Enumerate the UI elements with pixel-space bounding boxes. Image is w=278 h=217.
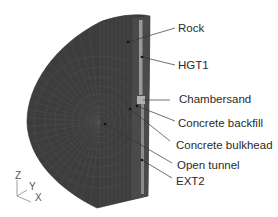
label-chambersand: Chambersand (179, 93, 251, 105)
label-rock: Rock (178, 22, 204, 34)
label-concrete-backfill: Concrete backfill (178, 117, 263, 129)
label-ext2: EXT2 (176, 175, 205, 187)
axis-z-label: Z (15, 170, 21, 181)
axis-y-label: Y (29, 181, 36, 192)
label-hgt1: HGT1 (178, 59, 209, 71)
mesh-diagram: Rock HGT1 Chambersand Concrete backfill … (0, 0, 278, 217)
ext2-strip (141, 104, 144, 194)
label-open-tunnel: Open tunnel (177, 159, 240, 171)
label-concrete-bulkhead: Concrete bulkhead (176, 139, 273, 151)
axis-x-label: X (35, 192, 42, 203)
